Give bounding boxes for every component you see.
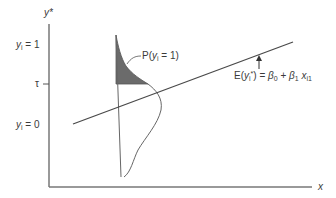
tau-label: τ — [35, 78, 39, 89]
y-axis-label: y* — [43, 7, 54, 18]
probability-label: P(yi = 1) — [142, 50, 179, 62]
regression-equation-label: E(yi*) = β0 + β1 xi1 — [234, 70, 312, 82]
x-axis-label: x — [317, 181, 324, 192]
regression-line — [73, 42, 293, 124]
probability-pointer — [127, 56, 141, 64]
latent-variable-diagram: y* x τ yi = 1 yi = 0 P(yi = 1) E(yi*) = … — [0, 0, 336, 198]
y-equals-1-label: yi = 1 — [15, 39, 40, 51]
y-equals-0-label: yi = 0 — [15, 119, 40, 131]
